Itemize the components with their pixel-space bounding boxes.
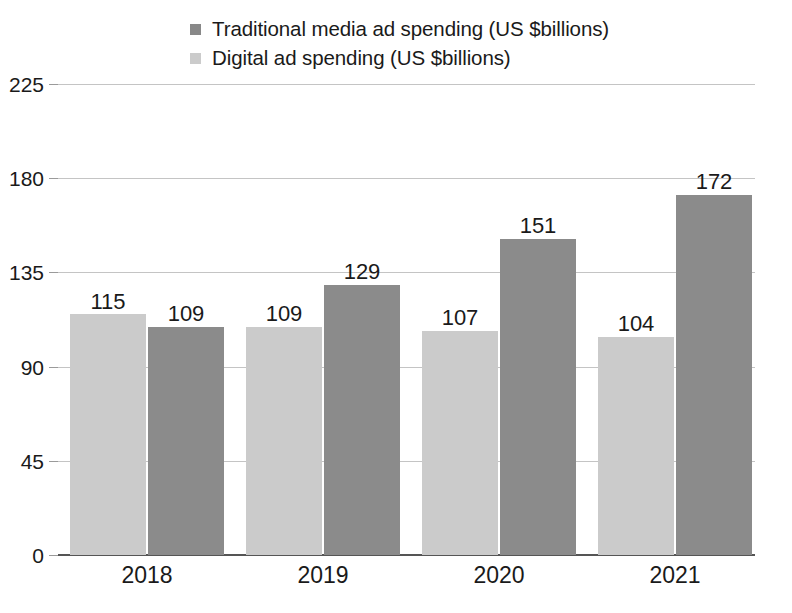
data-label-traditional-2018: 109 (146, 302, 226, 326)
x-tick-label-2021: 2021 (600, 562, 750, 588)
y-tick-label-225: 225 (9, 74, 44, 95)
y-tick-label-45: 45 (21, 450, 44, 471)
x-tick-label-2020: 2020 (424, 562, 574, 588)
y-tick-mark-90 (49, 367, 58, 368)
bar-traditional-2018[interactable] (148, 327, 224, 555)
legend-label-traditional: Traditional media ad spending (US $billi… (212, 18, 609, 40)
bar-traditional-2020[interactable] (500, 239, 576, 555)
legend-swatch-icon-digital (190, 53, 201, 64)
y-tick-mark-135 (49, 272, 58, 273)
legend-item-traditional: Traditional media ad spending (US $billi… (190, 14, 750, 43)
data-label-digital-2019: 109 (244, 302, 324, 326)
data-label-traditional-2019: 129 (322, 260, 402, 284)
bar-digital-2020[interactable] (422, 331, 498, 555)
y-tick-label-180: 180 (9, 168, 44, 189)
x-axis: 2018 2019 2020 2021 (58, 562, 755, 602)
bar-traditional-2021[interactable] (676, 195, 752, 555)
data-label-traditional-2020: 151 (498, 214, 578, 238)
y-tick-mark-45 (49, 461, 58, 462)
y-tick-label-0: 0 (32, 545, 44, 566)
bar-digital-2018[interactable] (70, 314, 146, 555)
y-tick-mark-180 (49, 178, 58, 179)
y-tick-mark-0 (49, 555, 58, 556)
bar-digital-2021[interactable] (598, 337, 674, 555)
x-tick-label-2018: 2018 (72, 562, 222, 588)
data-label-digital-2021: 104 (596, 312, 676, 336)
y-axis: 0 45 90 135 180 225 (0, 84, 58, 555)
y-tick-label-135: 135 (9, 262, 44, 283)
bar-traditional-2019[interactable] (324, 285, 400, 555)
x-tick-label-2019: 2019 (248, 562, 398, 588)
legend-swatch-icon-traditional (190, 24, 201, 35)
y-tick-mark-225 (49, 84, 58, 85)
legend-item-digital: Digital ad spending (US $billions) (190, 43, 750, 72)
bar-chart: Traditional media ad spending (US $billi… (0, 0, 792, 613)
legend-label-digital: Digital ad spending (US $billions) (212, 47, 511, 69)
bar-digital-2019[interactable] (246, 327, 322, 555)
data-label-digital-2018: 115 (68, 290, 148, 314)
data-label-traditional-2021: 172 (674, 170, 754, 194)
data-label-digital-2020: 107 (420, 306, 500, 330)
plot-area: 115 109 109 129 107 151 104 172 (58, 84, 755, 555)
y-tick-label-90: 90 (21, 356, 44, 377)
chart-legend: Traditional media ad spending (US $billi… (190, 14, 750, 72)
